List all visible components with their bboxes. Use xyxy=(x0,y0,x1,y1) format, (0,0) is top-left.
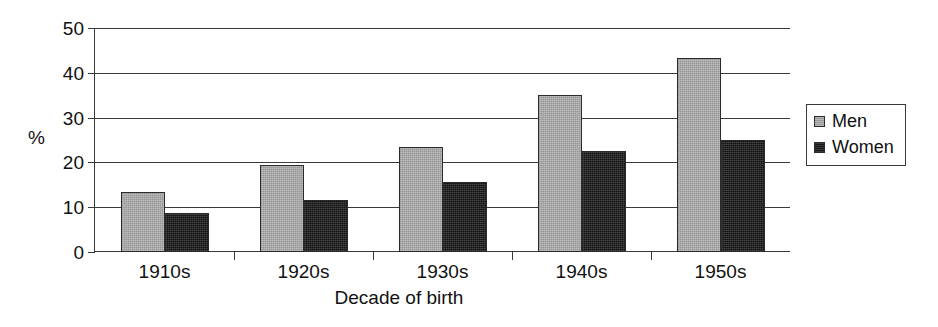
plot-area xyxy=(95,28,790,252)
chart-legend: Men Women xyxy=(806,104,906,166)
x-tick-mark xyxy=(234,252,235,260)
y-axis-line xyxy=(94,28,95,252)
y-tick-label: 10 xyxy=(38,198,84,217)
x-category-label: 1930s xyxy=(373,262,512,282)
bar-chart: % 01020304050 1910s1920s1930s1940s1950s … xyxy=(0,0,938,327)
bar-women-1930s xyxy=(443,182,487,252)
x-tick-mark xyxy=(512,252,513,260)
bar-men-1920s xyxy=(260,165,304,252)
legend-label-men: Men xyxy=(832,112,867,130)
x-category-label: 1910s xyxy=(95,262,234,282)
legend-swatch-men-icon xyxy=(814,116,825,127)
legend-item-men: Men xyxy=(814,109,867,133)
legend-swatch-women-icon xyxy=(814,142,825,153)
y-tick-label: 40 xyxy=(38,64,84,83)
y-tick-mark xyxy=(88,162,95,163)
gridline xyxy=(95,28,790,29)
x-tick-mark xyxy=(373,252,374,260)
bar-men-1950s xyxy=(677,58,721,252)
y-tick-label: 0 xyxy=(38,243,84,262)
bar-men-1910s xyxy=(121,192,165,252)
x-category-label: 1950s xyxy=(651,262,790,282)
x-category-label: 1920s xyxy=(234,262,373,282)
x-axis-title: Decade of birth xyxy=(0,288,938,308)
y-axis-tick-labels: 01020304050 xyxy=(34,0,84,327)
x-category-label: 1940s xyxy=(512,262,651,282)
y-tick-mark xyxy=(88,207,95,208)
bar-men-1940s xyxy=(538,95,582,252)
y-tick-label: 20 xyxy=(38,153,84,172)
y-tick-mark xyxy=(88,118,95,119)
bar-women-1910s xyxy=(165,213,209,252)
bar-women-1940s xyxy=(582,151,626,252)
x-tick-mark xyxy=(651,252,652,260)
legend-label-women: Women xyxy=(832,138,894,156)
y-tick-mark xyxy=(88,73,95,74)
legend-item-women: Women xyxy=(814,135,894,159)
y-tick-mark xyxy=(88,252,95,253)
bar-women-1950s xyxy=(721,140,765,252)
y-tick-label: 50 xyxy=(38,19,84,38)
y-tick-label: 30 xyxy=(38,109,84,128)
bar-men-1930s xyxy=(399,147,443,252)
bar-women-1920s xyxy=(304,200,348,252)
y-tick-mark xyxy=(88,28,95,29)
